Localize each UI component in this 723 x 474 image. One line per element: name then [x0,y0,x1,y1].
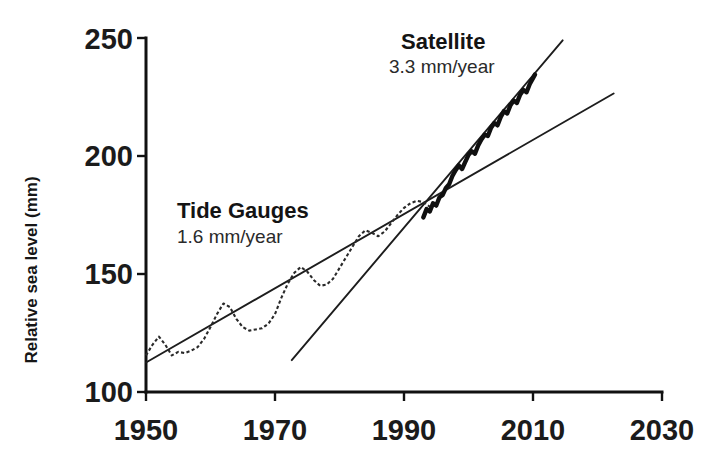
x-tick-label: 2030 [630,414,695,446]
x-tick-label: 2010 [501,414,566,446]
chart-svg: Relative sea level (mm) 100 150 200 250 … [0,0,723,474]
y-tick-label: 150 [85,258,133,290]
satellite-rate: 3.3 mm/year [389,56,495,77]
x-tick-label: 1950 [114,414,179,446]
x-tick-labels: 1950 1970 1990 2010 2030 [114,414,695,446]
y-tick-label: 250 [85,23,133,55]
tide-gauges-label: Tide Gauges [177,198,309,223]
tide-gauges-rate: 1.6 mm/year [177,226,283,247]
tide-gauges-annotation: Tide Gauges 1.6 mm/year [177,198,309,247]
satellite-series [423,75,535,218]
sea-level-chart: Relative sea level (mm) 100 150 200 250 … [0,0,723,474]
x-tick-label: 1970 [243,414,308,446]
y-tick-label: 200 [85,140,133,172]
y-tick-label: 100 [85,376,133,408]
satellite-label: Satellite [401,29,485,54]
y-axis-title: Relative sea level (mm) [22,176,41,363]
satellite-annotation: Satellite 3.3 mm/year [389,29,495,77]
x-tick-label: 1990 [372,414,437,446]
tide-gauge-series [146,201,436,356]
y-tick-labels: 100 150 200 250 [85,23,133,408]
